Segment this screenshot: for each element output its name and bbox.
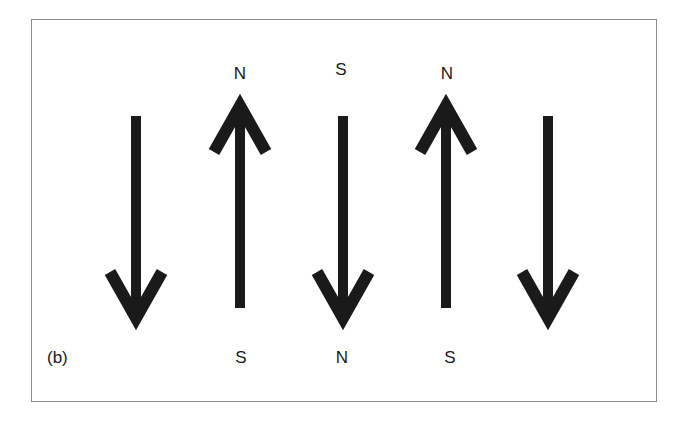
bottom-pole-label-1: S — [235, 349, 246, 366]
arrow-up-icon — [214, 106, 266, 308]
top-pole-label-2: S — [335, 61, 346, 78]
arrow-up-icon — [420, 106, 472, 308]
bottom-pole-label-3: S — [444, 349, 455, 366]
arrow-down-icon — [110, 116, 162, 318]
top-pole-label-3: N — [441, 65, 453, 82]
arrow-down-icon — [522, 116, 574, 318]
bottom-pole-label-2: N — [336, 349, 348, 366]
arrow-down-icon — [317, 116, 369, 318]
panel-label: (b) — [47, 349, 68, 366]
top-pole-label-1: N — [234, 65, 246, 82]
